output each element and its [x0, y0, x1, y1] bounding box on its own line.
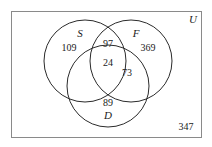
region-count-f-and-d: 73: [122, 67, 132, 78]
universe-label: U: [189, 13, 198, 25]
set-label-s: S: [77, 27, 83, 39]
region-count-f-only: 369: [141, 42, 156, 53]
region-count-s-only: 109: [62, 42, 77, 53]
set-label-f: F: [132, 27, 140, 39]
region-count-s-and-f: 97: [103, 38, 113, 49]
venn-diagram-figure: U S F D 109 369 89 97 73 24 347: [0, 0, 212, 147]
region-count-d-only: 89: [103, 97, 113, 108]
set-label-d: D: [103, 109, 112, 121]
region-count-all-three: 24: [103, 57, 113, 68]
region-count-outside: 347: [179, 121, 194, 132]
venn-diagram-canvas: U S F D 109 369 89 97 73 24 347: [0, 0, 212, 147]
